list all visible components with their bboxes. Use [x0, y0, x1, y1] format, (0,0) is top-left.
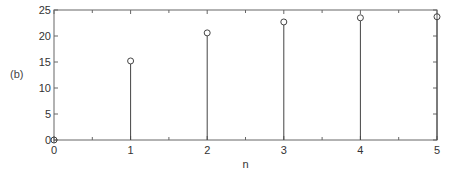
- stem-marker: [357, 15, 363, 21]
- stem-marker: [204, 30, 210, 36]
- y-tick-label: 20: [39, 30, 51, 42]
- x-tick-label: 5: [434, 144, 440, 156]
- y-tick-label: 15: [39, 56, 51, 68]
- x-tick-label: 4: [357, 144, 363, 156]
- stem-marker: [281, 19, 287, 25]
- x-tick-label: 2: [204, 144, 210, 156]
- y-tick-label: 5: [45, 108, 51, 120]
- axis-ticks: 0123450510152025: [39, 4, 440, 156]
- x-axis-label: n: [242, 158, 248, 169]
- y-tick-label: 25: [39, 4, 51, 16]
- stem-plot: 0123450510152025 n: [0, 0, 455, 169]
- stem-marker: [128, 58, 134, 64]
- axes-frame: [54, 10, 437, 140]
- y-tick-label: 10: [39, 82, 51, 94]
- y-tick-label: 0: [45, 134, 51, 146]
- x-tick-label: 3: [281, 144, 287, 156]
- x-tick-label: 0: [51, 144, 57, 156]
- x-tick-label: 1: [128, 144, 134, 156]
- data-stems: [51, 14, 440, 143]
